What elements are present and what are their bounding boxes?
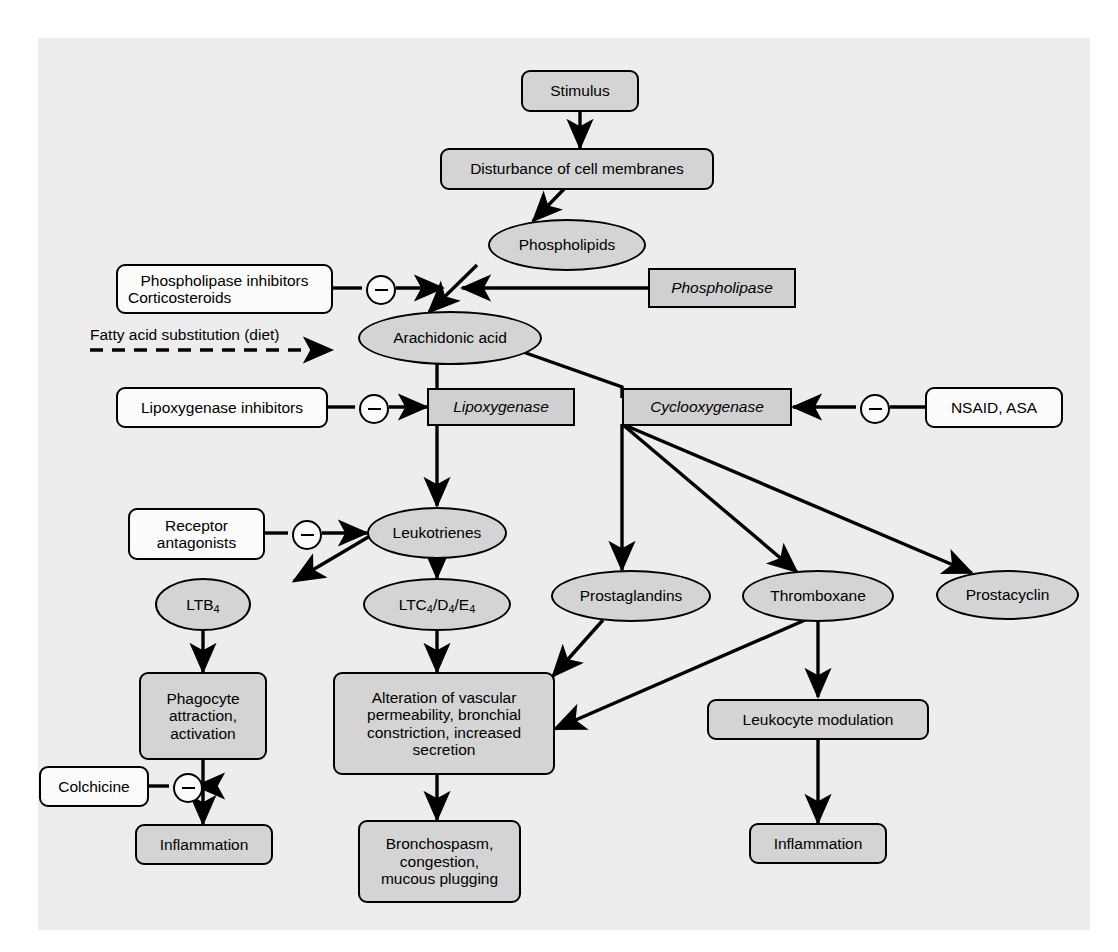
label-fatty-acid-substitution-text: Fatty acid substitution (diet) (90, 326, 280, 343)
inhibition-symbol-colchicine (173, 773, 203, 803)
minus-icon (375, 289, 388, 292)
connector-layer (0, 0, 1118, 952)
node-ltc4-d4-e4-label: LTC4/D4/E4 (399, 596, 476, 613)
node-nsaid-asa-label: NSAID, ASA (951, 399, 1037, 416)
node-phagocyte-attraction-activation[interactable]: Phagocyte attraction, activation (139, 672, 267, 760)
node-colchicine-label: Colchicine (58, 778, 130, 795)
node-inflammation-right[interactable]: Inflammation (749, 823, 887, 864)
node-bronchospasm-line1: Bronchospasm, (386, 835, 494, 852)
node-nsaid-asa[interactable]: NSAID, ASA (925, 387, 1063, 428)
edge-prostaglandins-alteration (553, 620, 603, 676)
node-prostaglandins-label: Prostaglandins (580, 587, 683, 604)
node-inflammation-left[interactable]: Inflammation (135, 824, 273, 865)
node-leukotrienes-label: Leukotrienes (393, 524, 482, 541)
node-phospholipase-inhibitors-line2: Corticosteroids (118, 289, 231, 306)
node-leukocyte-modulation-label: Leukocyte modulation (743, 711, 894, 728)
node-prostacyclin[interactable]: Prostacyclin (936, 570, 1079, 620)
node-phospholipase[interactable]: Phospholipase (648, 268, 796, 308)
pathway-figure: Stimulus Disturbance of cell membranes P… (0, 0, 1118, 952)
minus-icon (869, 408, 882, 411)
edge-cox-prostacyclin (622, 424, 972, 573)
node-phospholipids[interactable]: Phospholipids (488, 219, 646, 271)
node-phagocyte-line2: attraction, (169, 707, 237, 724)
inhibition-symbol-cyclooxygenase (860, 394, 890, 424)
edge-cox-thromboxane (622, 424, 797, 572)
node-phospholipase-label: Phospholipase (671, 279, 773, 296)
node-inflammation-left-label: Inflammation (160, 836, 249, 853)
minus-icon (301, 534, 314, 537)
node-lipoxygenase[interactable]: Lipoxygenase (427, 388, 575, 426)
node-alteration-line3: constriction, increased (367, 724, 521, 741)
label-fatty-acid-substitution: Fatty acid substitution (diet) (90, 326, 280, 344)
minus-icon (182, 787, 195, 790)
node-leukotrienes[interactable]: Leukotrienes (367, 507, 507, 559)
node-prostacyclin-label: Prostacyclin (966, 586, 1050, 603)
node-arachidonic-acid[interactable]: Arachidonic acid (358, 311, 542, 365)
node-alteration-line4: secretion (413, 741, 476, 758)
node-alteration-line1: Alteration of vascular (372, 689, 517, 706)
minus-icon (368, 408, 381, 411)
node-phagocyte-line3: activation (170, 725, 235, 742)
node-disturbance-label: Disturbance of cell membranes (470, 160, 684, 177)
node-prostaglandins[interactable]: Prostaglandins (551, 570, 711, 622)
inhibition-symbol-receptor-antagonists (292, 520, 322, 550)
node-cyclooxygenase-label: Cyclooxygenase (650, 398, 764, 415)
node-arachidonic-acid-label: Arachidonic acid (393, 329, 507, 346)
inhibition-symbol-phospholipase (366, 275, 396, 305)
node-receptor-antagonists[interactable]: Receptor antagonists (128, 508, 265, 560)
node-inflammation-right-label: Inflammation (774, 835, 863, 852)
node-stimulus-label: Stimulus (550, 82, 609, 99)
node-lipoxygenase-inhibitors[interactable]: Lipoxygenase inhibitors (116, 387, 328, 428)
inhibition-symbol-lipoxygenase (359, 394, 389, 424)
node-receptor-antagonists-line1: Receptor (165, 517, 228, 534)
node-phospholipids-label: Phospholipids (519, 236, 616, 253)
node-bronchospasm-line2: congestion, (400, 853, 479, 870)
node-stimulus[interactable]: Stimulus (521, 70, 639, 112)
node-phagocyte-line1: Phagocyte (166, 690, 239, 707)
node-bronchospasm[interactable]: Bronchospasm, congestion, mucous pluggin… (358, 820, 521, 903)
node-phospholipase-inhibitors[interactable]: Phospholipase inhibitors Corticosteroids (116, 264, 333, 314)
node-alteration-line2: permeability, bronchial (367, 706, 521, 723)
node-alteration-of-vascular-permeability[interactable]: Alteration of vascular permeability, bro… (333, 672, 555, 775)
node-lipoxygenase-label: Lipoxygenase (453, 398, 549, 415)
node-ltb4-label: LTB4 (186, 596, 219, 613)
node-phospholipase-inhibitors-line1: Phospholipase inhibitors (140, 272, 308, 289)
node-cyclooxygenase[interactable]: Cyclooxygenase (622, 388, 792, 426)
node-thromboxane-label: Thromboxane (770, 587, 866, 604)
node-ltc4-d4-e4[interactable]: LTC4/D4/E4 (363, 578, 511, 631)
node-thromboxane[interactable]: Thromboxane (742, 570, 894, 622)
node-leukocyte-modulation[interactable]: Leukocyte modulation (707, 699, 929, 740)
node-disturbance-of-cell-membranes[interactable]: Disturbance of cell membranes (440, 148, 714, 190)
node-colchicine[interactable]: Colchicine (39, 766, 149, 807)
edge-disturbance-phospholipids (533, 187, 566, 221)
node-receptor-antagonists-line2: antagonists (157, 534, 236, 551)
node-ltb4[interactable]: LTB4 (155, 578, 251, 631)
node-lipoxygenase-inhibitors-label: Lipoxygenase inhibitors (141, 399, 303, 416)
node-bronchospasm-line3: mucous plugging (381, 870, 498, 887)
